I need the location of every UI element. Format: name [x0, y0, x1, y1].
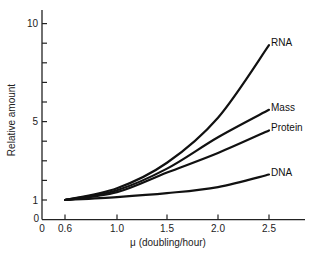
- chart: 1510000.61.01.52.02.5 RNAMassProteinDNA …: [0, 0, 312, 264]
- series-line-rna: [65, 45, 269, 200]
- y-tick-label: 10: [27, 18, 39, 29]
- series-line-mass: [65, 110, 269, 200]
- x-tick-label: 0.6: [58, 223, 72, 234]
- series-label-protein: Protein: [271, 122, 303, 133]
- series-labels: RNAMassProteinDNA: [271, 37, 303, 177]
- series-label-mass: Mass: [271, 102, 295, 113]
- x-tick-label: 1.0: [110, 223, 124, 234]
- x-tick-label: 2.5: [262, 223, 276, 234]
- series-label-rna: RNA: [271, 37, 292, 48]
- y-tick-label: 5: [32, 116, 38, 127]
- x-tick-label: 0: [39, 223, 45, 234]
- series-line-protein: [65, 130, 269, 200]
- y-axis-title: Relative amount: [6, 84, 17, 156]
- x-tick-label: 2.0: [211, 223, 225, 234]
- series-lines: [65, 45, 269, 200]
- x-axis-title: μ (doubling/hour): [130, 237, 206, 248]
- series-label-dna: DNA: [271, 167, 292, 178]
- y-tick-label: 1: [32, 195, 38, 206]
- x-tick-label: 1.5: [160, 223, 174, 234]
